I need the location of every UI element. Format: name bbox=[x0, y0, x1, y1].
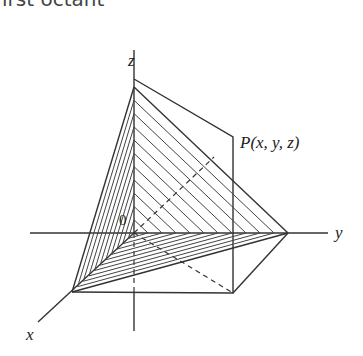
hatch-line bbox=[95, 233, 232, 271]
hatch-line bbox=[134, 127, 246, 233]
origin-label: 0 bbox=[119, 212, 127, 228]
point-p-label: P(x, y, z) bbox=[239, 133, 300, 152]
z-axis-label: z bbox=[127, 51, 135, 70]
box-outline bbox=[72, 79, 233, 293]
hatch-line bbox=[134, 206, 162, 233]
hatch-line bbox=[134, 153, 218, 233]
hatch-line bbox=[134, 114, 260, 233]
x-axis-label: x bbox=[25, 325, 34, 344]
octant-diagram: z y x 0 P(x, y, z) bbox=[0, 0, 363, 356]
y-axis-label: y bbox=[333, 223, 343, 242]
xy-hypotenuse bbox=[72, 233, 288, 292]
dashed-diagonal-up bbox=[134, 157, 214, 233]
